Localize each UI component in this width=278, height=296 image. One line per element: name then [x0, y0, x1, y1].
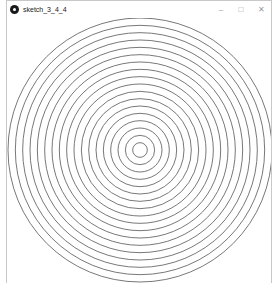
minimize-button[interactable]: –: [211, 1, 231, 18]
ring: [59, 69, 220, 230]
title-bar[interactable]: sketch_3_4_4 – □ ✕: [7, 1, 271, 18]
ring: [8, 18, 271, 282]
ring: [52, 62, 228, 238]
ring: [45, 55, 236, 246]
concentric-circles-drawing: [7, 18, 271, 283]
processing-app-icon: [10, 5, 19, 14]
ring: [118, 128, 162, 172]
maximize-button[interactable]: □: [231, 1, 251, 18]
ring: [103, 113, 176, 186]
ring: [23, 33, 258, 268]
ring: [96, 106, 184, 194]
ring: [133, 143, 148, 158]
ring: [81, 91, 198, 208]
ring: [15, 25, 264, 274]
sketch-canvas[interactable]: [7, 18, 271, 283]
ring: [111, 121, 170, 180]
sketch-window: sketch_3_4_4 – □ ✕: [6, 0, 272, 283]
ring: [89, 99, 192, 202]
window-controls: – □ ✕: [211, 1, 271, 18]
ring: [37, 47, 242, 252]
ring: [125, 135, 154, 164]
ring: [74, 84, 206, 216]
ring: [30, 40, 250, 260]
close-button[interactable]: ✕: [251, 1, 271, 18]
window-title: sketch_3_4_4: [23, 6, 67, 13]
